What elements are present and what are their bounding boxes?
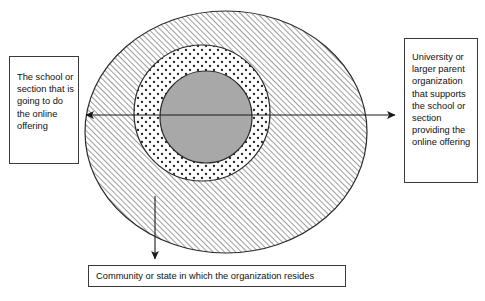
callout-community-or-state-text: Community or state in which the organiza… xyxy=(96,270,314,282)
inner-circle-school xyxy=(160,71,252,163)
callout-community-or-state: Community or state in which the organiza… xyxy=(88,265,346,287)
callout-school-or-section: The school or section that is going to d… xyxy=(9,56,79,164)
callout-university-or-parent: University or larger parent organization… xyxy=(404,38,478,183)
callout-school-or-section-text: The school or section that is going to d… xyxy=(17,71,78,132)
callout-university-or-parent-text: University or larger parent organization… xyxy=(412,51,477,149)
diagram-canvas: The school or section that is going to d… xyxy=(0,0,485,301)
